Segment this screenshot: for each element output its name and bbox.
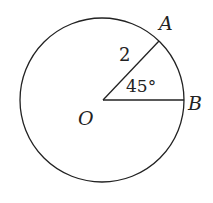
radius-length-label: 2: [119, 44, 130, 65]
circle-diagram: A B O 2 45°: [0, 0, 213, 203]
point-a-label: A: [157, 12, 173, 34]
center-o-label: O: [78, 107, 94, 129]
point-b-label: B: [187, 92, 202, 114]
angle-label: 45°: [126, 76, 156, 96]
